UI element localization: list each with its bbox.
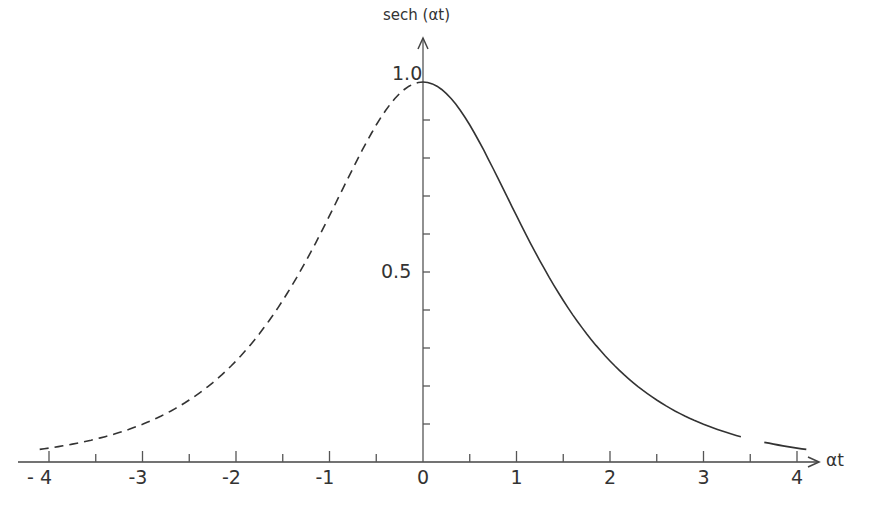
sech-curve-dashed	[40, 82, 423, 449]
y-tick-label-0.5: 0.5	[381, 260, 411, 282]
x-tick-label: -2	[222, 466, 241, 488]
x-tick-label: -1	[316, 466, 335, 488]
x-tick-label: 2	[604, 466, 616, 488]
sech-curve-solid	[423, 82, 741, 437]
x-tick-label: - 4	[27, 466, 52, 488]
x-tick-label: 3	[698, 466, 710, 488]
x-tick-label: 1	[511, 466, 523, 488]
x-tick-label: 4	[791, 466, 803, 488]
sech-plot	[0, 0, 869, 507]
x-tick-label: -3	[129, 466, 148, 488]
sech-curve-tail	[764, 442, 806, 449]
y-axis-title: sech (αt)	[383, 6, 450, 24]
y-tick-label-1.0: 1.0	[392, 62, 422, 84]
x-axis-title: αt	[826, 450, 844, 470]
x-tick-label: 0	[417, 466, 429, 488]
